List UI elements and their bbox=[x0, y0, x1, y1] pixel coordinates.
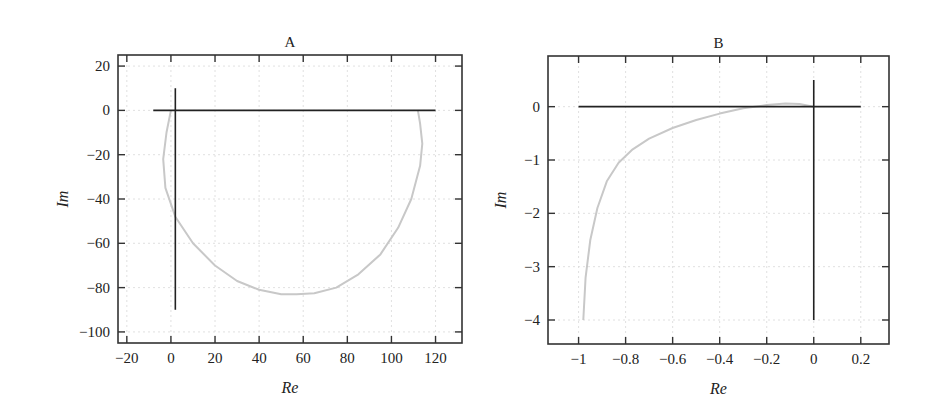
x-tick-label: 120 bbox=[424, 350, 447, 366]
x-tick-label: −20 bbox=[115, 350, 138, 366]
x-tick-label: 0 bbox=[167, 350, 175, 366]
panel-b: −1−0.8−0.6−0.4−0.200.20−1−2−3−4 B Re Im bbox=[492, 35, 889, 397]
curves bbox=[583, 104, 813, 321]
y-tick-label: −60 bbox=[87, 235, 110, 251]
x-tick-label: 60 bbox=[296, 350, 311, 366]
y-tick-label: −2 bbox=[524, 205, 540, 221]
x-axis-label: Re bbox=[281, 379, 299, 396]
panel-a: −20020406080100120200−20−40−60−80−100 A … bbox=[54, 34, 462, 396]
panel-title: A bbox=[285, 34, 296, 50]
x-tick-label: −0.4 bbox=[706, 351, 734, 367]
y-tick-label: −1 bbox=[524, 152, 540, 168]
x-tick-label: −0.2 bbox=[753, 351, 780, 367]
x-tick-label: 0.2 bbox=[851, 351, 870, 367]
panel-title: B bbox=[713, 35, 723, 51]
x-tick-label: 0 bbox=[810, 351, 818, 367]
x-tick-label: 20 bbox=[208, 350, 223, 366]
y-tick-label: 20 bbox=[95, 58, 110, 74]
curves bbox=[163, 110, 422, 294]
x-tick-label: 100 bbox=[380, 350, 403, 366]
y-axis-label: Im bbox=[492, 192, 509, 210]
x-tick-label: −1 bbox=[571, 351, 587, 367]
y-tick-label: −40 bbox=[87, 191, 110, 207]
grid-lines bbox=[548, 56, 889, 344]
x-tick-label: −0.6 bbox=[659, 351, 687, 367]
y-tick-label: 0 bbox=[533, 99, 541, 115]
y-tick-label: 0 bbox=[103, 102, 111, 118]
nyquist-curve bbox=[163, 110, 422, 294]
x-axis-label: Re bbox=[709, 380, 727, 397]
nyquist-curve bbox=[583, 104, 813, 321]
y-tick-label: −3 bbox=[524, 259, 540, 275]
y-tick-label: −100 bbox=[79, 324, 110, 340]
y-tick-label: −80 bbox=[87, 280, 110, 296]
x-tick-label: 80 bbox=[340, 350, 355, 366]
x-tick-label: 40 bbox=[252, 350, 267, 366]
y-axis-label: Im bbox=[54, 191, 71, 209]
x-tick-label: −0.8 bbox=[612, 351, 639, 367]
figure: −20020406080100120200−20−40−60−80−100 A … bbox=[0, 0, 929, 420]
y-tick-label: −20 bbox=[87, 147, 110, 163]
ticks: −20020406080100120200−20−40−60−80−100 bbox=[79, 55, 462, 366]
y-tick-label: −4 bbox=[524, 312, 540, 328]
plot-frame bbox=[548, 56, 889, 344]
